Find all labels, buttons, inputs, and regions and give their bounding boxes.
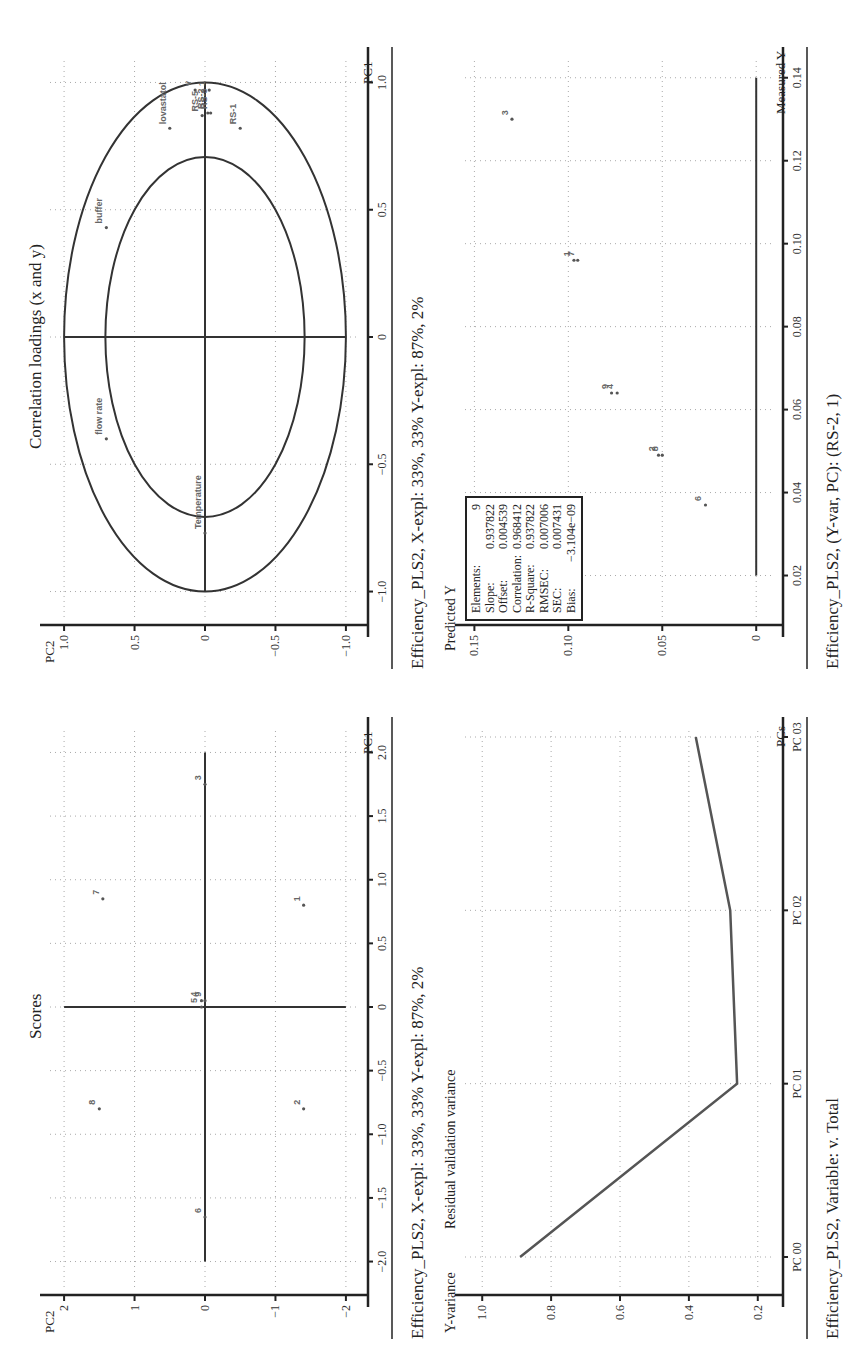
y-tick-label: 0.15	[467, 635, 481, 656]
data-point	[168, 127, 171, 130]
x-tick-label: 0	[375, 334, 389, 340]
data-point	[208, 88, 211, 91]
scores-plot: −2.0−1.5−1.0−0.500.51.01.52.0210−1−28721…	[20, 699, 400, 1339]
y-tick-label: 0	[749, 635, 763, 641]
y-tick-label: 1.0	[57, 635, 71, 650]
chart-caption: Efficiency_PLS2, X-expl: 33%, 33% Y-expl…	[408, 296, 428, 669]
point-label: 6	[693, 496, 703, 501]
point-label: lovastatol	[158, 82, 168, 124]
data-point	[302, 904, 305, 907]
y-tick-label: 1	[128, 1305, 142, 1311]
y-tick-label: −1	[268, 1305, 282, 1318]
x-tick-label: 0.12	[790, 150, 804, 171]
x-tick-label: 0.04	[790, 482, 804, 503]
stat-label: Bias:	[565, 588, 579, 613]
point-label: RS-1	[228, 104, 238, 125]
point-label: 1	[292, 896, 302, 901]
point-label: 3	[500, 110, 510, 115]
variance-line	[520, 737, 737, 1257]
stat-label: RMSEC:	[538, 569, 552, 613]
stat-row: Bias:−3.104e−09	[565, 504, 579, 613]
chart-caption: Efficiency_PLS2, X-expl: 33%, 33% Y-expl…	[408, 966, 428, 1339]
chart-caption: Efficiency_PLS2, (Y-var, PC): (RS-2, 1)	[823, 394, 843, 669]
x-tick-label: PC 02	[790, 895, 804, 925]
x-tick-label: PC 01	[790, 1069, 804, 1099]
x-tick-label: 1.5	[375, 809, 389, 824]
data-point	[209, 111, 212, 114]
data-point	[203, 531, 206, 534]
data-point	[200, 1005, 203, 1008]
y-tick-label: 0.2	[751, 1305, 765, 1320]
point-label: 2	[647, 446, 657, 451]
regression-stats-box: Elements:9Slope:0.937822Offset:0.004539C…	[465, 496, 583, 621]
axes: PC 00PC 01PC 02PC 031.00.80.60.40.2	[455, 717, 807, 1339]
x-tick-label: 1.0	[375, 75, 389, 90]
x-tick-label: PC 00	[790, 1242, 804, 1272]
chart-caption: Efficiency_PLS2, Variable: v. Total	[823, 1098, 843, 1339]
axes: −1.0−0.500.51.01.00.50−0.5−1.0	[40, 47, 392, 669]
figure: Scores PC2 PC1 −2.0−1.5−1.0−0.500.51.01.…	[0, 0, 857, 1359]
data-point	[206, 111, 209, 114]
y-tick-label: 0	[198, 635, 212, 641]
x-tick-label: −0.5	[375, 453, 389, 475]
stat-value: 0.007431	[551, 504, 565, 549]
y-tick-label: 2	[57, 1305, 71, 1311]
y-tick-label: 0.10	[561, 635, 575, 656]
point-label: v	[183, 81, 193, 86]
data-point	[239, 127, 242, 130]
y-tick-label: −1.0	[339, 635, 353, 657]
point-label: 8	[87, 1100, 97, 1105]
loadings-panel: Correlation loadings (x and y) PC2 PC1 −…	[20, 29, 440, 669]
point-label: 1	[197, 81, 207, 86]
y-tick-label: 0.4	[682, 1305, 696, 1320]
data-point	[203, 999, 206, 1002]
point-label: flow rate	[94, 398, 104, 435]
scores-panel: Scores PC2 PC1 −2.0−1.5−1.0−0.500.51.01.…	[20, 699, 440, 1339]
data-points: 68249713	[500, 110, 707, 506]
y-tick-label: 1.0	[475, 1305, 489, 1320]
data-point	[704, 503, 707, 506]
point-label: 9	[193, 992, 203, 997]
predicted-panel: Predicted Y Measured Y 0.020.040.060.080…	[435, 29, 855, 669]
x-tick-label: PC 03	[790, 722, 804, 752]
x-tick-label: 0.5	[375, 202, 389, 217]
data-point	[610, 391, 613, 394]
x-tick-label: 0.14	[790, 67, 804, 88]
x-tick-label: −1.0	[375, 581, 389, 603]
stat-value: −3.104e−09	[565, 504, 579, 562]
y-tick-label: 0.5	[128, 635, 142, 650]
data-point	[194, 88, 197, 91]
data-point	[572, 259, 575, 262]
loadings-plot: −1.0−0.500.51.01.00.50−0.5−1.0lovastatol…	[20, 29, 400, 669]
axes: −2.0−1.5−1.0−0.500.51.01.52.0210−1−2	[40, 717, 392, 1339]
point-label: 2	[292, 1100, 302, 1105]
data-point	[101, 897, 104, 900]
data-point	[657, 454, 660, 457]
point-label: 1	[562, 251, 572, 256]
stat-label: R-Square:	[524, 564, 538, 613]
x-tick-label: 0.08	[790, 316, 804, 337]
stat-row: Elements:9	[470, 504, 484, 613]
y-tick-label: −2	[339, 1305, 353, 1318]
stat-row: R-Square:0.937822	[524, 504, 538, 613]
y-tick-label: 0.05	[655, 635, 669, 656]
stat-row: RMSEC:0.007006	[538, 504, 552, 613]
x-tick-label: 0	[375, 1004, 389, 1010]
point-label: 9	[600, 384, 610, 389]
stat-value: 0.007006	[538, 504, 552, 549]
point-label: RS-3	[199, 88, 209, 109]
data-point	[105, 226, 108, 229]
x-tick-label: 0.02	[790, 565, 804, 586]
x-tick-label: 0.10	[790, 233, 804, 254]
y-tick-label: 0	[198, 1305, 212, 1311]
data-point	[661, 454, 664, 457]
x-tick-label: 1.0	[375, 872, 389, 887]
data-point	[105, 437, 108, 440]
stat-row: Offset:0.004539	[497, 504, 511, 613]
data-point	[302, 1107, 305, 1110]
x-tick-label: −1.5	[375, 1187, 389, 1209]
data-points: lovastatolbufferflow rateTemperatureRS-5…	[94, 81, 241, 535]
y-tick-label: 0.6	[613, 1305, 627, 1320]
point-label: 5	[189, 998, 199, 1003]
data-point	[201, 114, 204, 117]
